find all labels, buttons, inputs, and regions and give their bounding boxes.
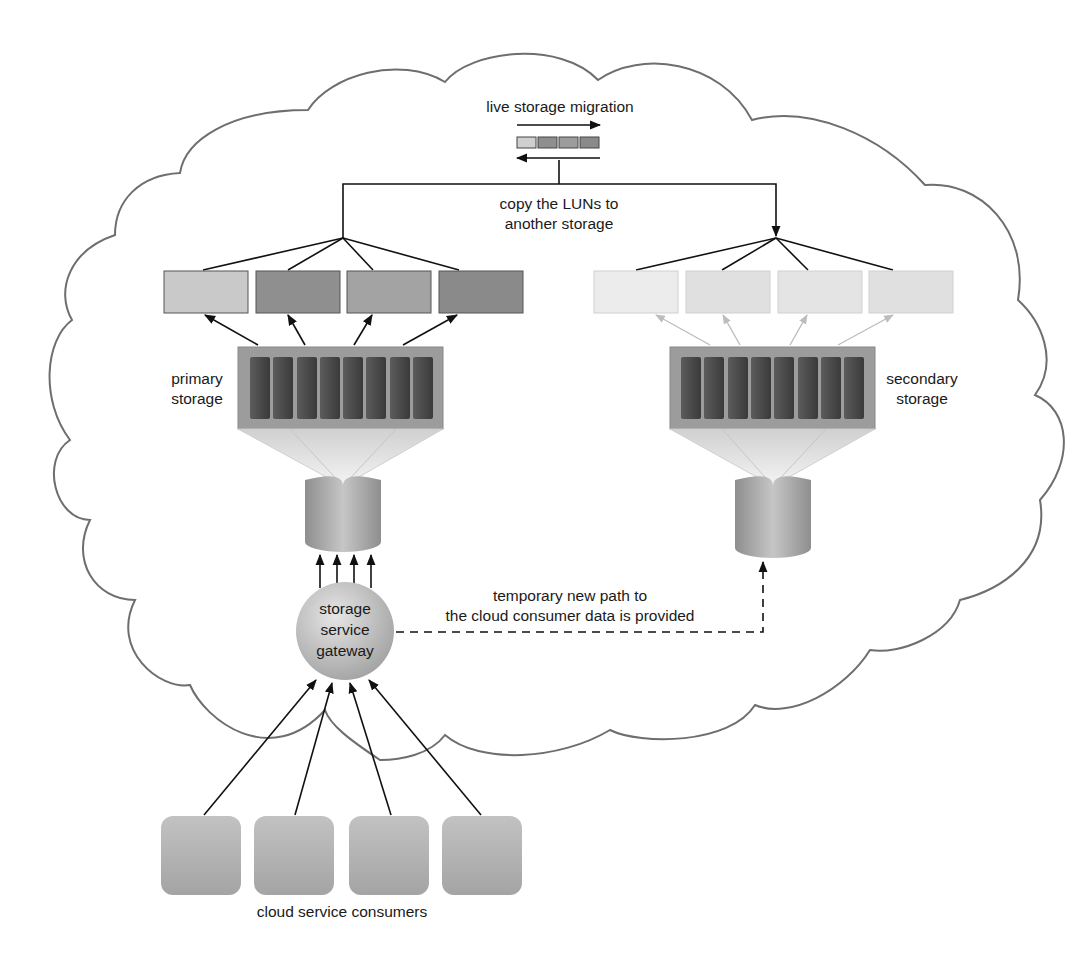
migration-title: live storage migration — [486, 98, 633, 115]
secondary-lun-3 — [778, 271, 862, 313]
secondary-storage-label-line1: secondary — [886, 370, 958, 387]
copy-label-line1: copy the LUNs to — [500, 195, 619, 212]
gateway-label-line1: storage — [319, 600, 371, 617]
primary-storage-device-icon — [305, 476, 381, 552]
live-storage-migration-diagram: live storage migration copy the LUNs to … — [0, 0, 1092, 954]
gateway-label-line2: service — [320, 621, 369, 638]
primary-storage-label-line1: primary — [171, 370, 223, 387]
temporary-path-label-line1: temporary new path to — [493, 587, 647, 604]
consumer-1 — [161, 816, 241, 895]
secondary-storage-label-line2: storage — [896, 390, 948, 407]
temporary-path-label-line2: the cloud consumer data is provided — [445, 607, 694, 624]
storage-service-gateway: storage service gateway — [296, 582, 394, 680]
consumer-3 — [349, 816, 429, 895]
secondary-storage-device-icon — [735, 476, 811, 558]
cloud-service-consumers — [161, 816, 522, 895]
gateway-label-line3: gateway — [316, 642, 374, 659]
primary-storage-label-line2: storage — [171, 390, 223, 407]
primary-lun-4 — [439, 271, 523, 313]
primary-lun-1 — [164, 271, 248, 313]
consumers-label: cloud service consumers — [257, 903, 428, 920]
copy-label-line2: another storage — [505, 215, 614, 232]
secondary-lun-2 — [686, 271, 770, 313]
primary-lun-2 — [256, 271, 340, 313]
consumer-2 — [254, 816, 334, 895]
consumer-4 — [442, 816, 522, 895]
primary-lun-3 — [347, 271, 431, 313]
secondary-lun-4 — [869, 271, 953, 313]
secondary-lun-1 — [594, 271, 678, 313]
